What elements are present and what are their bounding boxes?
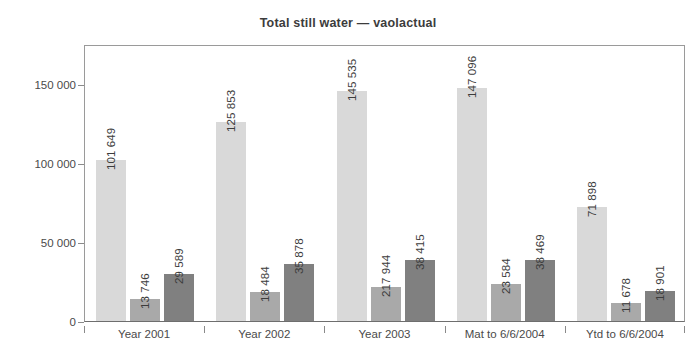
x-tick-mark [565, 326, 566, 333]
chart-title: Total still water — vaolactual [0, 16, 696, 30]
x-tick-mark [684, 326, 685, 333]
bar-value-label: 38 469 [534, 234, 546, 270]
bar-value-label: 29 589 [173, 248, 185, 284]
bar-value-label: 101 649 [105, 128, 117, 170]
bar-value-label: 13 746 [139, 273, 151, 309]
bar-series-1-4[interactable] [577, 207, 607, 321]
bar-value-label: 11 678 [620, 278, 632, 313]
bar-value-label: 217 944 [380, 254, 392, 296]
bar-value-label: 147 096 [466, 56, 478, 98]
y-tick-label: 50 000 [0, 237, 76, 249]
x-tick-mark [445, 326, 446, 333]
y-axis: 050 000100 000150 000 [0, 45, 76, 322]
x-tick-mark [204, 326, 205, 333]
bar-series-1-1[interactable] [216, 122, 246, 321]
x-category-label: Year 2003 [358, 328, 410, 340]
bar-value-label: 23 584 [500, 258, 512, 294]
bar-value-label: 71 898 [586, 181, 598, 217]
x-axis: Year 2001Year 2002Year 2003Mat to 6/6/20… [84, 326, 685, 356]
x-category-label: Ytd to 6/6/2004 [586, 328, 664, 340]
x-tick-mark [84, 326, 85, 333]
x-category-label: Mat to 6/6/2004 [465, 328, 545, 340]
y-tick-mark [78, 322, 84, 323]
x-tick-mark [324, 326, 325, 333]
bar-series-1-3[interactable] [457, 88, 487, 321]
x-category-label: Year 2001 [118, 328, 170, 340]
bar-series-1-2[interactable] [337, 91, 367, 321]
bar-value-label: 18 901 [654, 265, 666, 301]
plot-area: 101 64913 74629 589125 85318 48435 87814… [84, 45, 685, 322]
bar-value-label: 38 415 [414, 234, 426, 270]
bar-value-label: 35 878 [293, 238, 305, 274]
y-tick-label: 100 000 [0, 158, 76, 170]
chart-container: Total still water — vaolactual 050 00010… [0, 0, 696, 361]
y-tick-label: 0 [0, 316, 76, 328]
bar-value-label: 18 484 [259, 266, 271, 302]
bar-value-label: 145 535 [346, 58, 358, 100]
bar-value-label: 125 853 [225, 90, 237, 132]
bar-series-1-0[interactable] [96, 160, 126, 321]
x-category-label: Year 2002 [238, 328, 290, 340]
y-tick-label: 150 000 [0, 79, 76, 91]
